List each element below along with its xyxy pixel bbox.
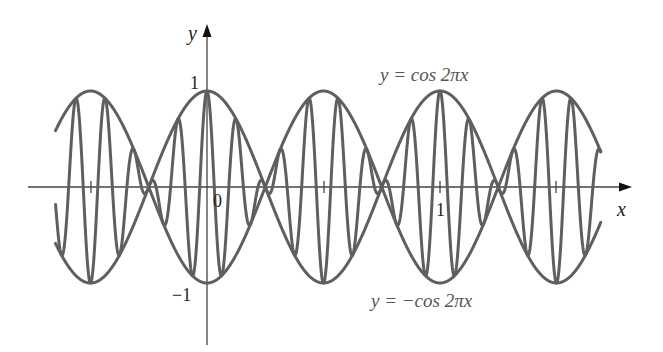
y-axis-arrow-icon [203,24,212,37]
lower-curve-label-pi: π [454,290,464,311]
x-axis-arrow-icon [619,183,632,192]
lower-curve-label-text: y = −cos 2 [369,290,455,311]
lower-curve-label-x: x [463,290,473,311]
upper-curve-label-x: x [459,64,469,85]
upper-curve-label-text: y = cos 2 [378,64,451,85]
upper-curve-label-pi: π [450,64,460,85]
lower-curve-label: y = −cos 2πx [369,290,473,311]
x-tick-label-1: 1 [436,200,445,220]
origin-label: 0 [213,191,222,211]
y-tick-label-1: 1 [190,73,199,93]
y-axis-label: y [186,22,197,45]
x-axis-label: x [616,198,626,220]
chart-canvas: y x 1 −1 0 1 y = cos 2πx y = −cos 2πx [0,0,663,352]
upper-curve-label: y = cos 2πx [378,64,469,85]
y-tick-label-neg1: −1 [172,285,191,305]
